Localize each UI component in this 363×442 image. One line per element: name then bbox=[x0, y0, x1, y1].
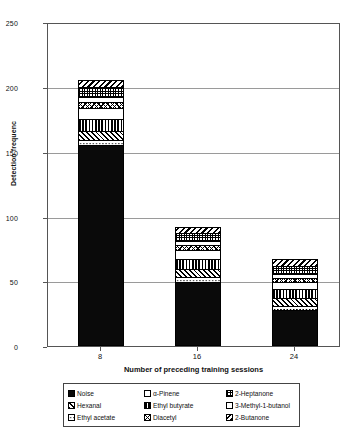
bar-stack-16[interactable] bbox=[175, 227, 221, 346]
x-tick-label-16: 16 bbox=[167, 352, 227, 361]
legend-label: 3-Methyl-1-butanol bbox=[235, 402, 290, 409]
legend-item-noise[interactable]: Noise bbox=[68, 390, 144, 397]
segment-a-pinene bbox=[78, 108, 124, 119]
legend-label: 2-Heptanone bbox=[235, 390, 273, 397]
y-axis-label: Detection frequenc bbox=[10, 79, 17, 229]
segment-a-pinene bbox=[175, 250, 221, 259]
legend-item-3-methyl-1-butanol[interactable]: 3-Methyl-1-butanol bbox=[226, 402, 295, 409]
segment-2-heptanone bbox=[272, 266, 318, 274]
legend-item-a-pinene[interactable]: α-Pinene bbox=[144, 390, 226, 397]
plot-area bbox=[47, 23, 340, 347]
legend-label: Ethyl acetate bbox=[77, 414, 115, 421]
segment-noise bbox=[272, 310, 318, 346]
bar-stack-8[interactable] bbox=[78, 80, 124, 346]
legend-swatch-2-heptanone-icon bbox=[226, 390, 233, 397]
segment-hexanal bbox=[272, 298, 318, 306]
x-tick-mark bbox=[100, 347, 101, 351]
segment-ethyl-butyrate bbox=[272, 289, 318, 298]
legend-swatch-2-butanone-icon bbox=[226, 414, 233, 421]
x-tick-mark bbox=[294, 347, 295, 351]
legend-label: Ethyl butyrate bbox=[153, 402, 193, 409]
segment-2-heptanone bbox=[175, 233, 221, 241]
y-tick-label: 0 bbox=[0, 344, 18, 351]
bar-stack-24[interactable] bbox=[272, 259, 318, 346]
legend-swatch-diacetyl-icon bbox=[144, 414, 151, 421]
legend-item-ethyl-butyrate[interactable]: Ethyl butyrate bbox=[144, 402, 226, 409]
legend-label: α-Pinene bbox=[153, 390, 180, 397]
y-tick-label: 50 bbox=[0, 279, 18, 286]
segment-2-heptanone bbox=[78, 87, 124, 97]
legend-label: Diacetyl bbox=[153, 414, 176, 421]
segment-noise bbox=[78, 145, 124, 346]
legend-label: 2-Butanone bbox=[235, 414, 269, 421]
segment-2-butanone bbox=[272, 259, 318, 266]
legend-swatch-hexanal-icon bbox=[68, 402, 75, 409]
legend-swatch-3-methyl-1-butanol-icon bbox=[226, 402, 233, 409]
x-tick-label-24: 24 bbox=[264, 352, 324, 361]
y-tick-mark bbox=[43, 347, 47, 348]
segment-hexanal bbox=[175, 269, 221, 277]
legend-item-2-heptanone[interactable]: 2-Heptanone bbox=[226, 390, 295, 397]
legend-swatch-a-pinene-icon bbox=[144, 390, 151, 397]
legend-swatch-noise-icon bbox=[68, 390, 75, 397]
legend-label: Noise bbox=[77, 390, 94, 397]
x-axis-label: Number of preceding training sessions bbox=[47, 365, 340, 374]
legend-item-diacetyl[interactable]: Diacetyl bbox=[144, 414, 226, 421]
segment-a-pinene bbox=[272, 282, 318, 289]
x-tick-mark bbox=[197, 347, 198, 351]
legend-item-hexanal[interactable]: Hexanal bbox=[68, 402, 144, 409]
legend-label: Hexanal bbox=[77, 402, 101, 409]
x-tick-label-8: 8 bbox=[70, 352, 130, 361]
segment-hexanal bbox=[78, 131, 124, 140]
legend-item-ethyl-acetate[interactable]: Ethyl acetate bbox=[68, 414, 144, 421]
legend-swatch-ethyl-butyrate-icon bbox=[144, 402, 151, 409]
y-tick-label: 250 bbox=[0, 20, 18, 27]
chart-figure: 250 200 150 100 50 0 Detection frequenc bbox=[0, 0, 363, 442]
segment-noise bbox=[175, 282, 221, 346]
legend-item-2-butanone[interactable]: 2-Butanone bbox=[226, 414, 295, 421]
legend-swatch-ethyl-acetate-icon bbox=[68, 414, 75, 421]
segment-2-butanone bbox=[78, 80, 124, 87]
segment-ethyl-butyrate bbox=[78, 119, 124, 131]
segment-ethyl-butyrate bbox=[175, 259, 221, 269]
chart-legend: Noise α-Pinene 2-Heptanone Hexanal Ethyl… bbox=[63, 383, 300, 427]
